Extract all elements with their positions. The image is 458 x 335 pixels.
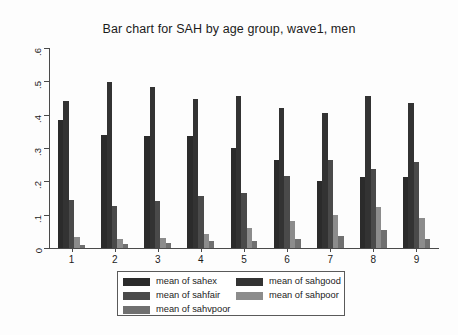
legend-label: mean of sahgood — [269, 277, 341, 286]
legend-label: mean of sahvpoor — [156, 305, 230, 314]
bar — [252, 241, 257, 248]
y-axis-tick-label: .2 — [33, 181, 44, 189]
x-axis-tick-label: 4 — [198, 254, 204, 265]
legend-entry: mean of sahpoor — [236, 289, 341, 302]
bar — [381, 230, 386, 248]
x-axis-tick — [244, 248, 245, 252]
y-axis-tick — [44, 115, 50, 116]
x-axis-tick-label: 8 — [371, 254, 377, 265]
x-axis-tick — [287, 248, 288, 252]
bar — [209, 241, 214, 248]
bar — [80, 245, 85, 248]
y-axis-tick — [44, 248, 50, 249]
x-axis-tick-label: 9 — [414, 254, 420, 265]
x-axis-tick — [115, 248, 116, 252]
y-axis-tick — [44, 48, 50, 49]
x-axis-tick-label: 6 — [284, 254, 290, 265]
legend-entry: mean of sahex — [123, 275, 230, 288]
legend-swatch — [236, 292, 263, 300]
plot-area: 123456789 — [50, 48, 438, 248]
y-axis-labels: 0.1.2.3.4.5.6 — [0, 48, 50, 249]
y-axis-tick — [44, 215, 50, 216]
legend-entry: mean of sahvpoor — [123, 303, 230, 316]
chart-container: Bar chart for SAH by age group, wave1, m… — [0, 0, 458, 335]
x-axis-tick-label: 7 — [327, 254, 333, 265]
y-axis-tick-label: .3 — [33, 148, 44, 156]
y-axis-tick-label: .1 — [33, 215, 44, 223]
legend-swatch — [236, 278, 263, 286]
x-axis-tick — [201, 248, 202, 252]
legend-swatch — [123, 278, 150, 286]
legend-swatch — [123, 306, 150, 314]
x-axis-tick-label: 2 — [112, 254, 118, 265]
legend-label: mean of sahfair — [156, 291, 220, 300]
y-axis-tick — [44, 148, 50, 149]
x-axis-tick — [158, 248, 159, 252]
x-axis-tick-label: 1 — [69, 254, 75, 265]
bar — [295, 239, 300, 248]
y-axis-tick — [44, 81, 50, 82]
chart-legend: mean of sahexmean of sahfairmean of sahv… — [117, 271, 345, 316]
y-axis-tick-label: .5 — [33, 81, 44, 89]
legend-column-left: mean of sahexmean of sahfairmean of sahv… — [123, 275, 230, 317]
x-axis-tick — [416, 248, 417, 252]
bar — [338, 236, 343, 248]
legend-label: mean of sahpoor — [269, 291, 339, 300]
legend-column-right: mean of sahgoodmean of sahpoor — [236, 275, 341, 303]
x-axis-tick — [72, 248, 73, 252]
bar — [166, 243, 171, 248]
y-axis-tick-label: .4 — [33, 115, 44, 123]
x-axis-tick-label: 5 — [241, 254, 247, 265]
legend-swatch — [123, 292, 150, 300]
legend-entry: mean of sahgood — [236, 275, 341, 288]
chart-title: Bar chart for SAH by age group, wave1, m… — [0, 22, 458, 36]
bar — [123, 244, 128, 248]
x-axis-tick — [373, 248, 374, 252]
x-axis-tick — [330, 248, 331, 252]
y-axis-tick-label: 0 — [33, 248, 44, 253]
y-axis-tick — [44, 181, 50, 182]
y-axis-tick-label: .6 — [33, 48, 44, 56]
legend-label: mean of sahex — [156, 277, 217, 286]
x-axis-tick-label: 3 — [155, 254, 161, 265]
legend-entry: mean of sahfair — [123, 289, 230, 302]
bar — [425, 239, 430, 248]
